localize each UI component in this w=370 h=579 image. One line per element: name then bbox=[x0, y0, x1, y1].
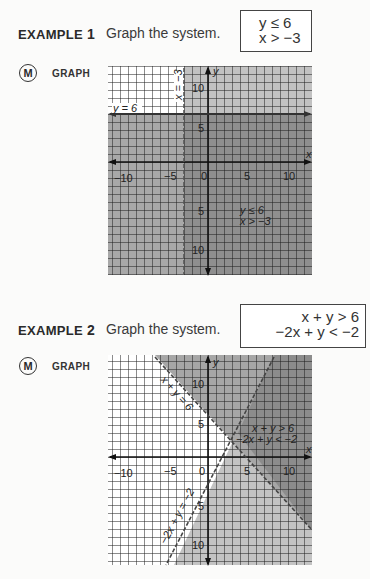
svg-text:0: 0 bbox=[199, 465, 205, 477]
region-label-2b: −2x + y < −2 bbox=[236, 433, 297, 445]
svg-text:5: 5 bbox=[198, 500, 204, 512]
svg-text:5: 5 bbox=[244, 465, 250, 477]
svg-text:10: 10 bbox=[192, 539, 204, 551]
svg-text:5: 5 bbox=[198, 418, 204, 430]
svg-text:−5: −5 bbox=[164, 465, 177, 477]
svg-text:−10: −10 bbox=[114, 467, 133, 479]
svg-text:10: 10 bbox=[283, 465, 295, 477]
svg-text:10: 10 bbox=[192, 378, 204, 390]
x-axis-label: x bbox=[305, 443, 312, 455]
graph-2: x + y = 6 −2x + y = −2 x y −10 −5 0 5 10… bbox=[0, 0, 370, 579]
